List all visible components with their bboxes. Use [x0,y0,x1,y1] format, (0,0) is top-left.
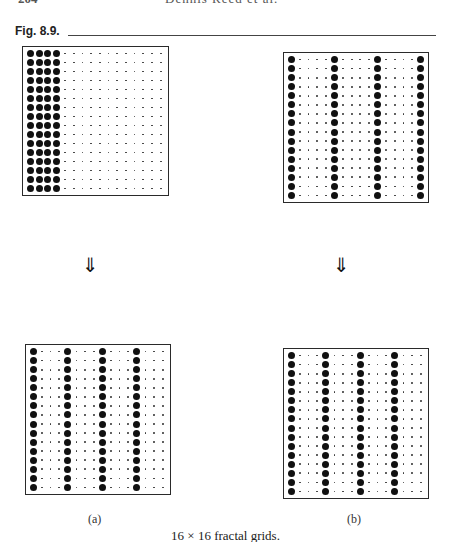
small-dot [385,463,387,465]
large-dot [30,375,37,382]
grid-cell [43,112,52,121]
grid-cell [78,103,87,112]
grid-cell [382,182,391,191]
small-dot [385,86,387,88]
small-dot [160,89,162,91]
grid-cell [399,469,408,478]
small-dot [368,364,370,366]
grid-cell [347,73,356,82]
grid-cell [96,130,105,139]
grid-cell [115,356,124,365]
grid-cell [115,447,124,456]
small-dot [116,179,118,181]
grid-cell [133,447,142,456]
small-dot [151,98,153,100]
grid-cell [322,469,331,478]
large-dot [357,388,364,395]
grid-cell [287,128,296,137]
large-dot [322,461,329,468]
grid-cell [322,405,331,414]
small-dot [334,445,336,447]
grid-cell [38,410,47,419]
small-dot [99,98,101,100]
small-dot [99,80,101,82]
grid-cell [382,109,391,118]
large-dot [30,448,37,455]
grid-cell [330,155,339,164]
small-dot [411,400,413,402]
small-dot [90,71,92,73]
grid-cell [304,469,313,478]
large-dot [288,370,295,377]
grid-cell [322,451,331,460]
grid-cell [296,155,305,164]
grid-cell [399,191,408,200]
small-dot [108,125,110,127]
small-dot [420,427,422,429]
small-dot [84,432,86,434]
large-dot [288,397,295,404]
grid-cell [313,360,322,369]
large-dot [288,56,295,63]
grid-cell [416,424,425,433]
grid-cell [313,414,322,423]
grid-cell [78,67,87,76]
grid-cell [64,447,73,456]
grid-cell [347,155,356,164]
small-dot [368,454,370,456]
small-dot [359,176,361,178]
grid-cell [339,91,348,100]
grid-cell [29,374,38,383]
grid-cell [287,424,296,433]
small-dot [153,387,155,389]
grid-cell [156,67,165,76]
grid-cell [391,64,400,73]
large-dot [27,59,34,66]
small-dot [82,98,84,100]
grid-cell [158,456,167,465]
grid-cell [124,383,133,392]
small-dot [76,378,78,380]
large-dot [99,421,106,428]
grid-cell [287,100,296,109]
small-dot [299,86,301,88]
grid-cell [347,469,356,478]
small-dot [58,478,60,480]
grid-cell [158,447,167,456]
grid-cell [356,451,365,460]
small-dot [84,396,86,398]
small-dot [385,95,387,97]
grid-cell [115,347,124,356]
small-dot [351,77,353,79]
small-dot [334,427,336,429]
small-dot [325,68,327,70]
grid-cell [373,405,382,414]
small-dot [342,418,344,420]
grid-cell [287,451,296,460]
grid-cell [113,67,122,76]
grid-cell [64,356,73,365]
grid-cell [124,356,133,365]
small-dot [151,179,153,181]
grid-cell [150,356,159,365]
small-dot [377,436,379,438]
small-dot [308,195,310,197]
grid-cell [347,433,356,442]
small-dot [385,400,387,402]
grid-cell [139,112,148,121]
grid-cell [69,49,78,58]
small-dot [82,62,84,64]
small-dot [110,459,112,461]
small-dot [142,98,144,100]
large-dot [99,430,106,437]
small-dot [411,418,413,420]
grid-cell [141,483,150,492]
grid-cell [330,487,339,496]
small-dot [403,364,405,366]
small-dot [342,122,344,124]
grid-cell [55,420,64,429]
small-dot [84,414,86,416]
grid-cell [81,447,90,456]
large-dot [374,83,381,90]
grid-cell [391,173,400,182]
